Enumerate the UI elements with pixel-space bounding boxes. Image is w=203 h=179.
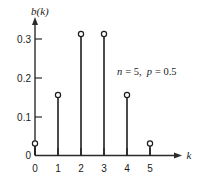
x-tick-label-1: 1	[55, 163, 61, 174]
data-point-k0	[32, 141, 37, 146]
annotation-n-value: = 5,	[125, 66, 141, 77]
x-tick-label-5: 5	[147, 163, 153, 174]
x-tick-label-3: 3	[101, 163, 107, 174]
x-tick-label-4: 4	[124, 163, 130, 174]
y-tick-label-0.3: 0.3	[17, 34, 31, 45]
marker-group	[32, 31, 152, 146]
stem-group	[35, 36, 150, 155]
y-axis-arrowhead	[32, 17, 38, 25]
y-tick-label-0: 0	[25, 150, 31, 161]
x-tick-label-2: 2	[78, 163, 84, 174]
x-tick-label-0: 0	[32, 163, 38, 174]
parameter-annotation: n= 5,p= 0.5	[117, 66, 177, 77]
stem-plot-svg: b(k) 0.3 0.2 0.1 0 k	[0, 0, 203, 179]
annotation-p-value: = 0.5	[155, 66, 177, 77]
data-point-k2	[78, 31, 83, 36]
y-axis-label: b(k)	[31, 5, 49, 18]
x-axis	[35, 153, 182, 159]
data-point-k5	[147, 141, 152, 146]
data-point-k4	[124, 92, 129, 97]
y-axis-ticks	[35, 39, 42, 117]
x-axis-ticks	[35, 148, 150, 155]
annotation-p-symbol: p	[146, 66, 152, 77]
y-tick-label-0.2: 0.2	[17, 73, 31, 84]
y-tick-label-0.1: 0.1	[17, 112, 31, 123]
x-axis-label: k	[187, 149, 193, 161]
annotation-n-symbol: n	[117, 66, 122, 77]
x-axis-arrowhead	[174, 153, 182, 159]
binomial-pmf-figure: b(k) 0.3 0.2 0.1 0 k	[0, 0, 203, 179]
data-point-k3	[101, 31, 106, 36]
data-point-k1	[55, 92, 60, 97]
y-axis	[32, 17, 38, 155]
